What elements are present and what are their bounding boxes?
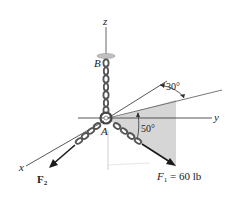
x-axis-label: x: [19, 162, 24, 173]
ring-a-inner: [104, 116, 108, 120]
f1-label: F1 = 60 lb: [157, 171, 201, 184]
y-axis-label: y: [214, 112, 219, 123]
f2-label: F2: [37, 174, 47, 187]
projection-line-2: [108, 163, 150, 165]
angle-50-label: 50°: [141, 124, 155, 134]
arc-30-arrowhead: [180, 94, 185, 98]
f1-value: = 60 lb: [167, 170, 201, 182]
point-b-label: B: [94, 58, 101, 69]
f2-subscript: 2: [44, 179, 48, 187]
chain-f2: [75, 122, 102, 145]
force-diagram: z B y x A 30° 50° F1 = 60 lb F2: [0, 0, 234, 211]
f2-symbol: F: [37, 173, 44, 185]
point-a-label: A: [101, 126, 108, 137]
f2-arrow: [53, 145, 75, 164]
angle-30-label: 30°: [166, 82, 180, 92]
chain-ab: [103, 59, 108, 113]
z-axis-label: z: [103, 16, 107, 27]
f1-symbol: F: [157, 170, 164, 182]
